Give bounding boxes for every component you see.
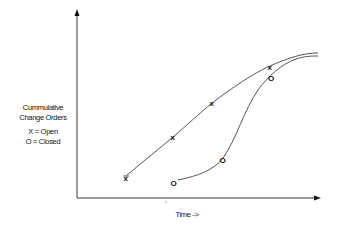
closed-curve bbox=[178, 56, 318, 180]
closed-marker: O bbox=[171, 179, 177, 188]
x-axis-arrow-icon bbox=[314, 196, 321, 201]
y-label-legend: Cummulative Change Orders X = Open O = C… bbox=[19, 103, 67, 146]
open-marker: x bbox=[171, 133, 176, 142]
closed-markers: O O O bbox=[171, 74, 275, 188]
closed-marker: O bbox=[220, 156, 226, 165]
closed-marker: O bbox=[268, 74, 274, 83]
open-marker: x bbox=[124, 174, 129, 183]
x-axis-tick bbox=[166, 202, 167, 203]
open-markers: x x x x bbox=[124, 63, 273, 184]
chart-canvas: x x x x O O O Cummulative Change Orders … bbox=[0, 0, 337, 230]
open-marker: x bbox=[268, 63, 273, 72]
legend-closed: O = Closed bbox=[26, 137, 61, 146]
y-axis-label-line2: Change Orders bbox=[19, 113, 67, 122]
y-axis-label-line1: Cummulative bbox=[23, 103, 64, 112]
axes bbox=[75, 9, 322, 203]
x-axis-label: Time -> bbox=[175, 210, 199, 219]
legend-open: X = Open bbox=[28, 127, 58, 136]
y-axis-arrow-icon bbox=[75, 9, 80, 16]
open-marker: x bbox=[210, 99, 215, 108]
